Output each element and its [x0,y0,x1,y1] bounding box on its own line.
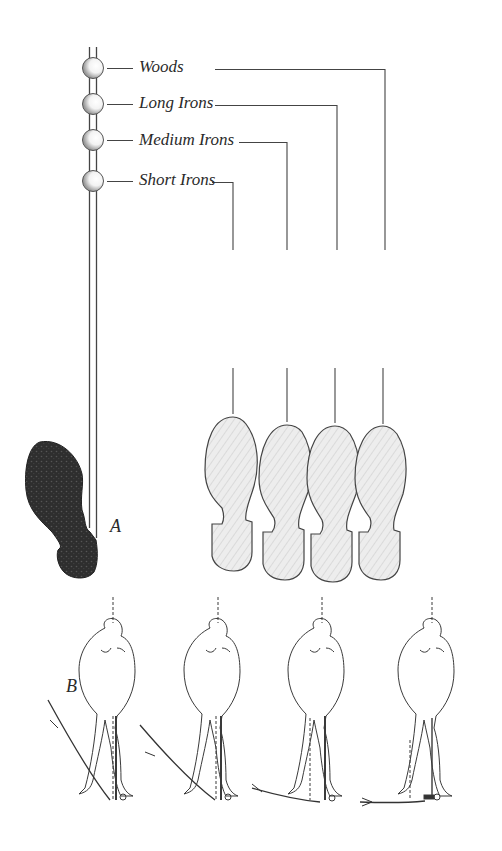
footprint-lines [233,368,383,424]
ball-icon-medium-irons [83,130,104,151]
leader-medium-irons [239,143,287,251]
ball-markers [83,58,104,192]
swing-arc-2 [140,725,215,800]
golfer-figures [79,597,454,801]
leader-lines [212,70,385,251]
label-ticks [107,69,133,182]
panel-label-b: B [66,677,77,695]
golfer-1 [79,597,135,800]
swing-arcs [48,700,425,806]
golfer-4 [398,597,454,800]
swing-arc-1 [48,700,110,800]
shoe-short-irons [205,417,257,571]
golf-ball-position-diagram [0,0,502,851]
left-shoe-sole-dark [26,441,98,578]
ball-icon-woods [83,58,104,79]
label-short-irons: Short Irons [139,171,215,188]
target-line [90,47,97,538]
leader-woods [215,70,385,251]
ball-icon-long-irons [83,94,104,115]
golfer-3 [288,597,344,801]
shoe-medium-irons [259,425,311,580]
leader-short-irons [212,183,233,251]
golfer-2 [184,597,240,800]
ball-icon-short-irons [83,171,104,192]
label-medium-irons: Medium Irons [139,131,234,148]
shoe-long-irons [307,426,359,582]
right-shoe-soles [205,417,406,582]
panel-label-a: A [110,517,121,535]
shoe-woods [355,426,406,580]
label-long-irons: Long Irons [139,94,213,111]
label-woods: Woods [139,58,184,75]
